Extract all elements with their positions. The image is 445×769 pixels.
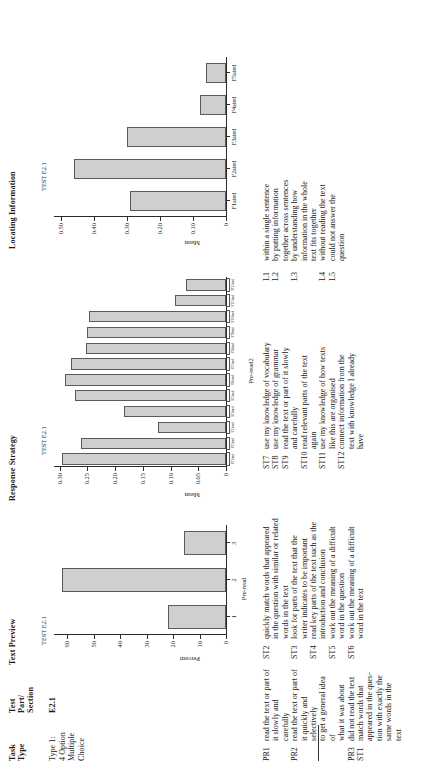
x-category-label: F3ated	[230, 121, 237, 153]
bar	[158, 422, 226, 433]
x-group-tick	[227, 437, 230, 450]
cell-task-type-value: Type 1: 4 Option Multiple Choice	[48, 717, 86, 761]
y-tick	[60, 467, 61, 471]
legend-row: PR3did not read the text	[347, 669, 356, 761]
legend-text: work out the meaning of a difficult word…	[347, 479, 366, 639]
y-tick	[173, 635, 174, 639]
legend-row: ST8use my knowledge of grammar	[271, 294, 280, 469]
y-tick	[143, 467, 144, 471]
legend-text: read the text or part of it slowly and c…	[281, 294, 300, 449]
y-axis-line	[54, 634, 227, 635]
legend-row: ST12connect information from the text wi…	[337, 294, 365, 469]
legend-key: PR2	[290, 741, 346, 761]
y-tick-label: 0.20	[156, 223, 163, 251]
legend-row: ST9read the text or part of it slowly an…	[281, 294, 300, 469]
bar	[200, 95, 226, 114]
legend-text: read the text or part of it slowly and c…	[262, 669, 290, 741]
legend-row: ST1match words that appeared in the ques…	[356, 669, 403, 761]
header-locating-information: Locating Information	[8, 99, 17, 249]
x-tick	[226, 616, 230, 617]
legend-text: connect information from the text with k…	[337, 294, 365, 449]
legend-row: PR2read the text or part of it quickly a…	[290, 669, 346, 761]
x-group-tick	[227, 373, 230, 386]
legend-text: look for parts of the text that the writ…	[290, 479, 309, 639]
legend-row: L1within a single sentence	[262, 131, 271, 281]
bar	[74, 159, 226, 178]
legend-text: work out the meaning of a difficult word…	[328, 479, 347, 639]
legend-key: PR1	[262, 741, 290, 761]
x-tick	[226, 200, 230, 201]
y-tick-label: 0.50	[57, 223, 64, 251]
legend-key: ST2	[262, 639, 290, 659]
header-task-type: Task Type	[8, 721, 26, 761]
chart2-x-axis-label: Pre-read2	[247, 281, 254, 461]
bar	[175, 295, 226, 306]
bar	[127, 127, 226, 146]
x-category-label: 1	[230, 598, 237, 635]
bar	[62, 568, 226, 592]
y-tick-label: 0	[222, 223, 229, 251]
legend-key: ST9	[281, 449, 300, 469]
y-tick-label: 0	[222, 641, 229, 669]
chart1-title: TEST E2.1	[40, 616, 47, 645]
y-tick	[160, 217, 161, 221]
y-tick-label: 0.20	[111, 473, 118, 501]
bar	[186, 279, 226, 290]
x-group-tick	[227, 342, 230, 355]
legend-text: quickly match words that appeared in the…	[262, 479, 290, 639]
y-tick-label: 0.40	[90, 223, 97, 251]
legend-row: ST7use my knowledge of vocabulary	[262, 294, 271, 469]
figure-rotation-wrapper: Task Type Test Part/ Section Text Previe…	[0, 0, 445, 769]
legend-key: ST6	[347, 639, 366, 659]
bar	[87, 327, 226, 338]
legend-row: L5could not answer the question	[328, 131, 347, 281]
x-category-label: F1ated	[230, 185, 237, 217]
legend-text: within a single sentence	[262, 131, 271, 261]
chart3-plot-area: 0.100.200.300.400.500F1atedF2atedF3atedF…	[54, 57, 226, 217]
y-tick	[120, 635, 121, 639]
legend-text: did not read the text	[347, 669, 356, 741]
bar	[130, 191, 226, 210]
legend-row: ST5work out the meaning of a difficult w…	[328, 479, 347, 659]
chart2-title: TEST E2.1	[40, 426, 47, 455]
chart1-plot-area: 1020304050600123	[54, 525, 226, 635]
legend-row: ST6work out the meaning of a difficult w…	[347, 479, 366, 659]
legend-row: ST2quickly match words that appeared in …	[262, 479, 290, 659]
y-tick-label: 50	[90, 641, 97, 669]
bar	[86, 343, 226, 354]
x-category-label: 3	[230, 525, 237, 562]
legend-column-strategy-right: ST7use my knowledge of vocabularyST8use …	[262, 294, 365, 469]
y-tick-label: 20	[169, 641, 176, 669]
legend-key: ST10	[300, 449, 319, 469]
x-group-tick	[227, 326, 230, 339]
x-group-tick	[227, 278, 230, 291]
y-tick	[147, 635, 148, 639]
legend-column-preview-strategy: PR1read the text or part of it slowly an…	[262, 669, 403, 761]
legend-text: read relevant parts of the text again	[300, 294, 319, 449]
legend-row: ST10read relevant parts of the text agai…	[300, 294, 319, 469]
legend-column-strategy-mid: ST2quickly match words that appeared in …	[262, 479, 365, 659]
chart3-title: TEST E2.1	[40, 162, 47, 191]
y-tick-label: 0.05	[194, 473, 201, 501]
header-text-preview: Text Preview	[8, 575, 17, 665]
legend-text: without reading the text	[318, 131, 327, 261]
legend-key: L3	[290, 261, 318, 281]
y-tick	[171, 467, 172, 471]
legend-text: use my knowledge of how texts like this …	[318, 294, 337, 449]
cell-test-part-value: E2.1	[48, 697, 57, 713]
y-tick	[94, 635, 95, 639]
y-tick-label: 0.15	[139, 473, 146, 501]
bar	[65, 374, 226, 385]
legend-text: read the text or part of it quickly and …	[290, 669, 346, 741]
legend-row: PR1read the text or part of it slowly an…	[262, 669, 290, 761]
bar	[206, 63, 226, 82]
legend-text: match words that appeared in the ques- t…	[356, 669, 403, 741]
bar	[71, 358, 226, 369]
header-test-part-section: Test Part/ Section	[8, 671, 36, 713]
legend-text: use my knowledge of vocabulary	[262, 294, 271, 449]
chart-text-preview: TEST E2.1 Percent Pre-read 1020304050600…	[40, 515, 270, 665]
legend-row: ST4read key parts of the text such as th…	[309, 479, 328, 659]
y-tick-label: 0.25	[83, 473, 90, 501]
y-tick-label: 0.30	[56, 473, 63, 501]
legend-text: use my knowledge of grammar	[271, 294, 280, 449]
